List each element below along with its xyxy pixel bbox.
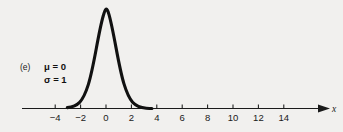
tick-label: 14 <box>279 112 290 123</box>
tick-label: −2 <box>75 112 86 123</box>
normal-distribution-figure: −4 −2 0 2 4 6 8 10 12 14 x (e) μ = 0 σ =… <box>0 0 343 132</box>
x-axis-arrow-icon <box>318 105 330 113</box>
tick-label: 0 <box>103 112 108 123</box>
tick-label: 10 <box>228 112 239 123</box>
normal-distribution-curve <box>67 9 152 108</box>
x-axis-ticks <box>55 105 284 109</box>
sigma-parameter-label: σ = 1 <box>44 74 67 85</box>
x-axis-title: x <box>331 104 337 114</box>
mu-parameter-label: μ = 0 <box>44 61 66 72</box>
tick-label: 8 <box>205 112 210 123</box>
tick-label: 12 <box>253 112 264 123</box>
plot-canvas: −4 −2 0 2 4 6 8 10 12 14 x (e) μ = 0 σ =… <box>0 0 343 132</box>
tick-label: 6 <box>180 112 185 123</box>
panel-label: (e) <box>20 62 31 72</box>
x-axis-tick-labels: −4 −2 0 2 4 6 8 10 12 14 <box>50 112 289 123</box>
tick-label: 4 <box>154 112 159 123</box>
tick-label: −4 <box>50 112 61 123</box>
tick-label: 2 <box>129 112 134 123</box>
